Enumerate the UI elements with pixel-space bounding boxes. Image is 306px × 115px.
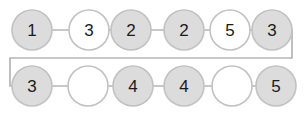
bottom-row: 3 4 4 5	[12, 66, 296, 106]
top-left-partial-arc	[0, 0, 7, 8]
node[interactable]: 3	[12, 66, 52, 106]
node[interactable]: 3	[252, 10, 292, 50]
node-circle[interactable]	[256, 66, 296, 106]
node[interactable]: 4	[164, 66, 204, 106]
node-circle[interactable]	[164, 10, 204, 50]
node[interactable]: 1	[12, 10, 52, 50]
node[interactable]: 4	[113, 66, 153, 106]
node[interactable]: 3	[69, 10, 109, 50]
node[interactable]: 2	[164, 10, 204, 50]
node-circle[interactable]	[111, 10, 151, 50]
node-circle[interactable]	[113, 66, 153, 106]
node-chain-diagram: 1 3 2 2 5 3	[0, 0, 306, 115]
diagram-canvas: 1 3 2 2 5 3	[0, 0, 306, 115]
node-circle[interactable]	[69, 10, 109, 50]
node-circle[interactable]	[12, 10, 52, 50]
node-circle[interactable]	[252, 10, 292, 50]
node-circle[interactable]	[12, 66, 52, 106]
node[interactable]: 5	[210, 10, 250, 50]
node-circle[interactable]	[212, 66, 252, 106]
node-circle[interactable]	[210, 10, 250, 50]
node[interactable]	[68, 66, 108, 106]
node[interactable]: 5	[256, 66, 296, 106]
node-circle[interactable]	[68, 66, 108, 106]
node-circle[interactable]	[164, 66, 204, 106]
node[interactable]: 2	[111, 10, 151, 50]
top-row: 1 3 2 2 5 3	[12, 10, 292, 50]
node[interactable]	[212, 66, 252, 106]
